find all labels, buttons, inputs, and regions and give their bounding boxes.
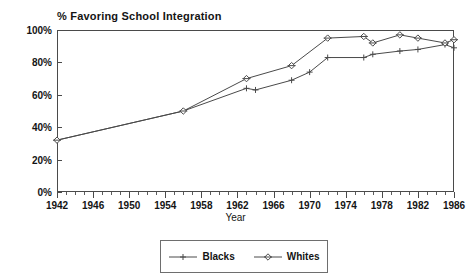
x-axis-tick-minor — [84, 192, 85, 195]
x-axis-tick-minor — [292, 192, 293, 195]
data-point-marker — [243, 85, 249, 91]
x-axis-tick-minor — [328, 192, 329, 195]
x-axis-tick-minor — [436, 192, 437, 195]
x-axis-tick-label: 1958 — [190, 200, 212, 211]
x-axis-tick-major — [346, 192, 347, 198]
x-axis-tick-minor — [111, 192, 112, 195]
chart-legend: BlacksWhites — [160, 240, 328, 273]
x-axis-tick-minor — [445, 192, 446, 195]
legend-entry-whites[interactable]: Whites — [253, 251, 320, 263]
data-point-marker — [451, 45, 457, 51]
x-axis-tick-minor — [400, 192, 401, 195]
x-axis-tick-major — [129, 192, 130, 198]
x-axis-tick-minor — [120, 192, 121, 195]
x-axis-tick-minor — [156, 192, 157, 195]
x-axis-tick-minor — [265, 192, 266, 195]
x-axis-tick-label: 1950 — [118, 200, 140, 211]
legend-entry-blacks[interactable]: Blacks — [168, 251, 234, 263]
x-axis-tick-major — [418, 192, 419, 198]
x-axis-tick-label: 1982 — [407, 200, 429, 211]
data-point-marker — [179, 108, 187, 114]
x-axis-tick-minor — [373, 192, 374, 195]
x-axis-title: Year — [0, 212, 471, 223]
data-point-marker — [180, 254, 186, 260]
plot-series-layer — [57, 30, 454, 192]
x-axis-tick-minor — [102, 192, 103, 195]
data-point-marker — [370, 51, 376, 57]
x-axis-tick-label: 1974 — [335, 200, 357, 211]
x-axis-tick-minor — [391, 192, 392, 195]
series-blacks — [54, 42, 457, 144]
x-axis-tick-minor — [183, 192, 184, 195]
x-axis-tick-label: 1966 — [262, 200, 284, 211]
x-axis-tick-major — [454, 192, 455, 198]
x-axis-tick-minor — [256, 192, 257, 195]
x-axis-tick-minor — [283, 192, 284, 195]
x-axis-tick-minor — [427, 192, 428, 195]
legend-marker-plus-icon — [168, 251, 198, 263]
x-axis-tick-label: 1986 — [443, 200, 465, 211]
data-point-marker — [242, 75, 250, 81]
x-axis-tick-minor — [337, 192, 338, 195]
x-axis-tick-minor — [66, 192, 67, 195]
data-point-marker — [415, 46, 421, 52]
x-axis-tick-major — [201, 192, 202, 198]
data-point-marker — [264, 253, 272, 259]
x-axis-tick-label: 1970 — [299, 200, 321, 211]
data-point-marker — [289, 77, 295, 83]
chart-figure: % Favoring School Integration 0%20%40%60… — [0, 0, 471, 279]
x-axis-tick-major — [274, 192, 275, 198]
x-axis-tick-minor — [192, 192, 193, 195]
x-axis-tick-label: 1946 — [82, 200, 104, 211]
legend-label: Whites — [287, 251, 320, 262]
x-axis-tick-minor — [301, 192, 302, 195]
x-axis-tick-minor — [174, 192, 175, 195]
x-axis-tick-minor — [147, 192, 148, 195]
legend-label: Blacks — [202, 251, 234, 262]
x-axis-tick-label: 1954 — [154, 200, 176, 211]
x-axis-tick-minor — [219, 192, 220, 195]
data-point-marker — [253, 87, 259, 93]
x-axis-tick-label: 1978 — [371, 200, 393, 211]
x-axis-tick-minor — [355, 192, 356, 195]
legend-marker-diamond-icon — [253, 251, 283, 263]
x-axis-tick-major — [93, 192, 94, 198]
chart-title: % Favoring School Integration — [57, 10, 222, 22]
y-axis-tick-label: 100% — [12, 25, 52, 36]
data-point-marker — [396, 32, 404, 38]
y-axis-tick-label: 20% — [12, 154, 52, 165]
y-axis-tick-label: 60% — [12, 89, 52, 100]
x-axis-tick-label: 1942 — [46, 200, 68, 211]
x-axis-tick-minor — [409, 192, 410, 195]
y-axis-tick-label: 40% — [12, 122, 52, 133]
x-axis-tick-major — [165, 192, 166, 198]
x-axis-tick-major — [310, 192, 311, 198]
data-point-marker — [450, 37, 458, 43]
x-axis-tick-minor — [246, 192, 247, 195]
y-axis-tick-label: 80% — [12, 57, 52, 68]
x-axis-tick-minor — [75, 192, 76, 195]
x-axis-tick-minor — [210, 192, 211, 195]
x-axis-tick-label: 1962 — [226, 200, 248, 211]
data-point-marker — [414, 35, 422, 41]
x-axis-tick-major — [57, 192, 58, 198]
x-axis-tick-minor — [138, 192, 139, 195]
y-axis-labels: 0%20%40%60%80%100% — [8, 0, 52, 279]
x-axis-tick-minor — [364, 192, 365, 195]
data-point-marker — [397, 48, 403, 54]
data-point-marker — [361, 55, 367, 61]
x-axis-tick-major — [237, 192, 238, 198]
y-axis-tick-label: 0% — [12, 187, 52, 198]
x-axis-tick-minor — [319, 192, 320, 195]
data-point-marker — [53, 137, 61, 143]
x-axis-tick-minor — [228, 192, 229, 195]
x-axis-tick-major — [382, 192, 383, 198]
